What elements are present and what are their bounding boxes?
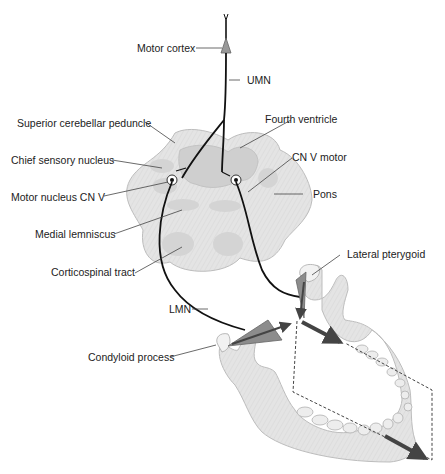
label-condyloid-process: Condyloid process [88, 351, 174, 363]
medial-lemniscus-shape [167, 199, 199, 211]
pons-section [127, 129, 312, 271]
superior-cerebellar-peduncle-shape [150, 159, 174, 173]
label-motor-cortex: Motor cortex [137, 42, 195, 54]
label-pons: Pons [313, 188, 337, 200]
lateral-pterygoid-muscles [228, 272, 306, 346]
mandible [217, 264, 416, 462]
label-motor-nucleus-cn-v: Motor nucleus CN V [11, 191, 105, 203]
motor-cortex-neuron [221, 14, 231, 53]
label-fourth-ventricle: Fourth ventricle [265, 113, 337, 125]
label-corticospinal-tract: Corticospinal tract [51, 266, 135, 278]
label-medial-lemniscus: Medial lemniscus [35, 228, 116, 240]
label-superior-cerebellar-peduncle: Superior cerebellar peduncle [17, 117, 151, 129]
label-lmn: LMN [169, 303, 191, 315]
label-chief-sensory-nucleus: Chief sensory nucleus [11, 154, 114, 166]
corticospinal-tract-shape [162, 232, 194, 256]
label-lateral-pterygoid: Lateral pterygoid [347, 248, 425, 260]
label-umn: UMN [247, 74, 271, 86]
label-cn-v-motor: CN V motor [292, 151, 347, 163]
